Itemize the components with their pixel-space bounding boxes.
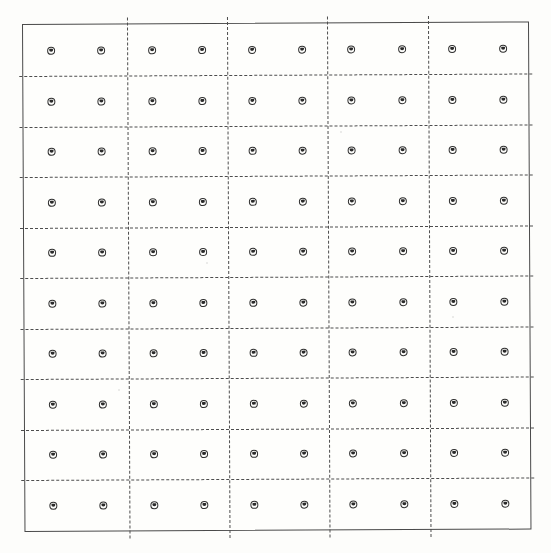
grid-marker-r3-c2 xyxy=(98,148,106,156)
grid-diagram xyxy=(22,22,531,532)
grid-marker-r8-c5 xyxy=(250,400,258,408)
grid-marker-r6-c4 xyxy=(199,299,207,307)
grid-marker-r1-c4 xyxy=(198,46,206,54)
grid-marker-r9-c5 xyxy=(250,450,258,458)
grid-marker-r4-c3 xyxy=(149,198,157,206)
grid-marker-r9-c7 xyxy=(349,449,357,457)
grid-marker-r3-c7 xyxy=(348,146,356,154)
grid-marker-r2-c8 xyxy=(398,96,406,104)
grid-marker-r9-c2 xyxy=(99,451,107,459)
scan-speck-3 xyxy=(340,131,342,133)
grid-marker-r7-c7 xyxy=(349,348,357,356)
grid-marker-r5-c3 xyxy=(149,248,157,256)
grid-marker-r5-c8 xyxy=(399,247,407,255)
grid-marker-r10-c3 xyxy=(150,501,158,509)
grid-marker-r7-c3 xyxy=(150,349,158,357)
grid-marker-r5-c4 xyxy=(199,248,207,256)
grid-marker-r2-c6 xyxy=(298,97,306,105)
grid-marker-r3-c10 xyxy=(500,146,508,154)
grid-marker-r4-c9 xyxy=(449,197,457,205)
grid-marker-r10-c10 xyxy=(501,500,509,508)
grid-marker-r4-c7 xyxy=(348,197,356,205)
grid-marker-r9-c9 xyxy=(450,449,458,457)
grid-marker-r7-c1 xyxy=(49,350,57,358)
grid-marker-r2-c3 xyxy=(148,97,156,105)
grid-marker-r6-c5 xyxy=(249,299,257,307)
grid-marker-r6-c9 xyxy=(449,298,457,306)
grid-marker-r9-c8 xyxy=(400,449,408,457)
grid-marker-r6-c2 xyxy=(98,300,106,308)
grid-marker-r6-c7 xyxy=(348,298,356,306)
scan-speck-4 xyxy=(452,316,454,318)
grid-marker-r1-c7 xyxy=(347,45,355,53)
grid-marker-r10-c7 xyxy=(349,500,357,508)
grid-marker-r3-c4 xyxy=(199,147,207,155)
grid-marker-r1-c10 xyxy=(499,45,507,53)
grid-marker-r8-c3 xyxy=(150,400,158,408)
grid-marker-r8-c6 xyxy=(300,400,308,408)
grid-marker-r5-c9 xyxy=(449,247,457,255)
grid-marker-r10-c8 xyxy=(400,500,408,508)
grid-marker-r5-c10 xyxy=(500,247,508,255)
grid-marker-r9-c10 xyxy=(501,449,509,457)
grid-marker-r5-c5 xyxy=(249,248,257,256)
grid-marker-r7-c10 xyxy=(501,348,509,356)
grid-marker-r10-c6 xyxy=(300,501,308,509)
grid-marker-r3-c8 xyxy=(399,146,407,154)
grid-marker-r8-c1 xyxy=(49,401,57,409)
grid-marker-r1-c8 xyxy=(398,45,406,53)
grid-marker-r10-c9 xyxy=(450,500,458,508)
grid-marker-r3-c5 xyxy=(249,147,257,155)
scan-speck-1 xyxy=(118,389,120,391)
grid-marker-r3-c9 xyxy=(449,146,457,154)
grid-marker-r7-c6 xyxy=(300,349,308,357)
grid-marker-r9-c4 xyxy=(200,450,208,458)
grid-marker-r8-c4 xyxy=(200,400,208,408)
grid-marker-r10-c4 xyxy=(200,501,208,509)
grid-marker-r9-c3 xyxy=(150,450,158,458)
grid-marker-r4-c1 xyxy=(48,199,56,207)
grid-marker-r7-c2 xyxy=(99,350,107,358)
grid-marker-r2-c7 xyxy=(347,96,355,104)
grid-marker-r4-c8 xyxy=(399,197,407,205)
grid-marker-r4-c5 xyxy=(249,198,257,206)
grid-marker-r7-c5 xyxy=(250,349,258,357)
grid-marker-r1-c6 xyxy=(298,46,306,54)
scanned-page xyxy=(0,0,551,553)
grid-marker-r5-c7 xyxy=(348,247,356,255)
grid-marker-r6-c10 xyxy=(500,298,508,306)
grid-marker-r10-c2 xyxy=(99,502,107,510)
grid-marker-r1-c9 xyxy=(448,45,456,53)
grid-marker-r6-c8 xyxy=(399,298,407,306)
grid-marker-r6-c6 xyxy=(299,299,307,307)
grid-marker-r9-c1 xyxy=(49,451,57,459)
grid-marker-r8-c2 xyxy=(99,401,107,409)
grid-marker-r3-c6 xyxy=(299,147,307,155)
grid-marker-r2-c10 xyxy=(499,96,507,104)
grid-marker-r2-c4 xyxy=(198,97,206,105)
grid-marker-r1-c1 xyxy=(47,47,55,55)
grid-marker-r8-c8 xyxy=(400,399,408,407)
grid-marker-r6-c1 xyxy=(48,300,56,308)
grid-marker-r8-c7 xyxy=(349,399,357,407)
marker-group xyxy=(22,22,531,532)
grid-marker-r4-c10 xyxy=(500,197,508,205)
grid-marker-r2-c9 xyxy=(448,96,456,104)
grid-marker-r8-c10 xyxy=(501,399,509,407)
grid-marker-r2-c5 xyxy=(248,97,256,105)
grid-marker-r10-c5 xyxy=(250,501,258,509)
grid-marker-r3-c3 xyxy=(149,147,157,155)
grid-marker-r10-c1 xyxy=(49,502,57,510)
grid-marker-r5-c1 xyxy=(48,249,56,257)
grid-marker-r6-c3 xyxy=(149,299,157,307)
scan-speck-2 xyxy=(206,262,208,264)
grid-marker-r7-c8 xyxy=(400,348,408,356)
grid-marker-r7-c4 xyxy=(200,349,208,357)
grid-marker-r4-c6 xyxy=(299,198,307,206)
grid-marker-r1-c3 xyxy=(148,46,156,54)
grid-marker-r5-c2 xyxy=(98,249,106,257)
grid-marker-r5-c6 xyxy=(299,248,307,256)
grid-marker-r2-c2 xyxy=(97,98,105,106)
grid-marker-r9-c6 xyxy=(300,450,308,458)
grid-marker-r7-c9 xyxy=(450,348,458,356)
